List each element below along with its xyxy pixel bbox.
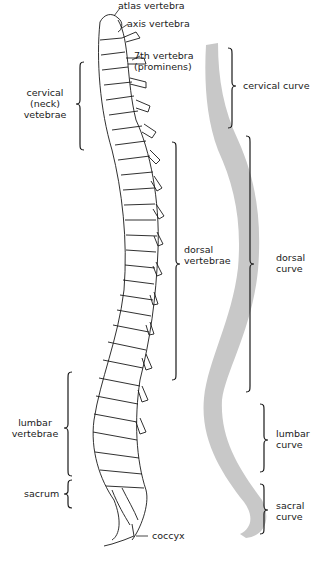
label-axis-vertebra: axis vertebra <box>127 18 190 29</box>
label-cervical-curve: cervical curve <box>243 80 310 91</box>
label-coccyx: coccyx <box>152 530 185 541</box>
label-sacral-curve: sacral curve <box>276 500 304 522</box>
label-lumbar-curve: lumbar curve <box>276 428 310 450</box>
brace-lumbar <box>64 372 72 476</box>
vertebral-column <box>93 15 164 546</box>
label-cervical-vertebrae: cervical (neck) vetebrae <box>18 87 72 120</box>
label-sacrum: sacrum <box>24 488 59 499</box>
brace-lumbar-curve <box>260 404 268 472</box>
label-seventh-vertebra: 7th vertebra (prominens) <box>134 50 194 72</box>
brace-cervical-curve <box>228 48 236 128</box>
spinal-curve-shape <box>204 43 267 538</box>
brace-dorsal-vertebrae <box>172 142 180 380</box>
label-dorsal-curve: dorsal curve <box>276 252 305 274</box>
brace-cervical <box>76 62 84 150</box>
label-lumbar-vertebrae: lumbar vertebrae <box>8 417 62 439</box>
brace-sacrum <box>64 480 72 508</box>
label-dorsal-vertebrae: dorsal vertebrae <box>184 244 231 266</box>
label-atlas-vertebra: atlas vertebra <box>118 0 185 11</box>
